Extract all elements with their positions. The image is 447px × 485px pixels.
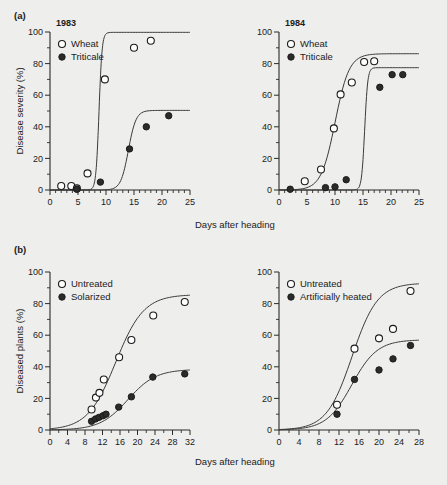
svg-text:16: 16 [115,437,125,447]
data-point [376,335,383,342]
svg-text:100: 100 [28,27,43,37]
data-point [150,374,156,380]
plot-area-solarized: 020406080100048121620242832Diseased plan… [14,258,199,463]
data-point [330,125,337,132]
chart-panel-a-1984: 1984 0204060801000510152025WheatTritical… [243,18,428,223]
svg-text:10: 10 [101,197,111,207]
svg-text:80: 80 [33,299,43,309]
data-point [301,178,308,185]
legend-label: Untreated [71,278,113,289]
svg-text:32: 32 [185,437,195,447]
data-point [371,58,378,65]
panel-b: (b) 020406080100048121620242832Diseased … [0,240,447,480]
svg-text:15: 15 [129,197,139,207]
legend-label: Triticale [300,51,333,62]
svg-text:24: 24 [150,437,160,447]
svg-text:Diseased plants (%): Diseased plants (%) [14,308,25,393]
data-point [390,325,397,332]
svg-text:20: 20 [33,394,43,404]
svg-text:0: 0 [267,425,272,435]
data-point [96,389,103,396]
svg-text:10: 10 [330,197,340,207]
svg-text:12: 12 [334,437,344,447]
svg-text:5: 5 [304,197,309,207]
svg-text:15: 15 [358,197,368,207]
data-point [101,76,108,83]
svg-text:0: 0 [47,197,52,207]
data-point [377,84,383,90]
svg-text:20: 20 [262,394,272,404]
svg-text:25: 25 [185,197,195,207]
svg-text:60: 60 [33,90,43,100]
svg-text:80: 80 [262,59,272,69]
data-point [74,186,80,192]
data-point [351,376,357,382]
svg-text:100: 100 [257,267,272,277]
legend-label: Triticale [71,51,104,62]
legend-marker [59,54,65,60]
data-point [361,59,368,66]
plot-area-heated: 0204060801000481216202428UntreatedArtifi… [243,258,428,463]
legend-marker [288,294,294,300]
svg-text:16: 16 [354,437,364,447]
svg-text:20: 20 [33,154,43,164]
svg-text:Disease severity (%): Disease severity (%) [14,67,25,154]
data-point [334,411,340,417]
panel-a: (a) 1983 0204060801000510152025Disease s… [0,0,447,240]
panel-b-tag: (b) [14,244,26,255]
legend-label: Untreated [300,278,342,289]
data-point [97,179,103,185]
data-point [389,71,395,77]
svg-text:80: 80 [33,59,43,69]
svg-text:0: 0 [38,185,43,195]
svg-text:20: 20 [262,154,272,164]
data-point [84,170,91,177]
data-point [116,354,123,361]
legend-label: Wheat [71,38,99,49]
svg-text:0: 0 [267,185,272,195]
data-point [58,183,65,190]
svg-text:8: 8 [82,437,87,447]
data-point [348,79,355,86]
svg-text:25: 25 [414,197,424,207]
svg-text:40: 40 [262,362,272,372]
data-point [115,404,121,410]
svg-text:100: 100 [28,267,43,277]
data-point [150,312,157,319]
legend-marker [59,281,66,288]
svg-text:20: 20 [386,197,396,207]
legend-marker [59,41,66,48]
chart-panel-b-heated: 0204060801000481216202428UntreatedArtifi… [243,258,428,463]
legend-label: Wheat [300,38,328,49]
svg-text:0: 0 [276,197,281,207]
data-point [88,406,95,413]
svg-text:20: 20 [132,437,142,447]
data-point [103,411,109,417]
svg-text:4: 4 [296,437,301,447]
svg-text:80: 80 [262,299,272,309]
data-point [143,124,149,130]
data-point [182,371,188,377]
data-point [126,146,132,152]
xaxis-label-panel-a: Days after heading [195,219,275,230]
xaxis-label-panel-b: Days after heading [195,456,275,467]
data-point [322,184,328,190]
data-point [128,336,135,343]
data-point [376,367,382,373]
data-point [337,91,344,98]
svg-text:12: 12 [97,437,107,447]
legend-marker [288,54,294,60]
data-point [334,401,341,408]
svg-text:24: 24 [394,437,404,447]
data-point [332,184,338,190]
data-point [100,376,107,383]
legend-label: Solarized [71,291,111,302]
svg-text:40: 40 [262,122,272,132]
figure-canvas: (a) 1983 0204060801000510152025Disease s… [0,0,447,485]
data-point [131,44,138,51]
plot-area-1983: 0204060801000510152025Disease severity (… [14,18,199,223]
legend-marker [59,294,65,300]
svg-text:0: 0 [47,437,52,447]
svg-text:60: 60 [262,330,272,340]
svg-text:40: 40 [33,122,43,132]
